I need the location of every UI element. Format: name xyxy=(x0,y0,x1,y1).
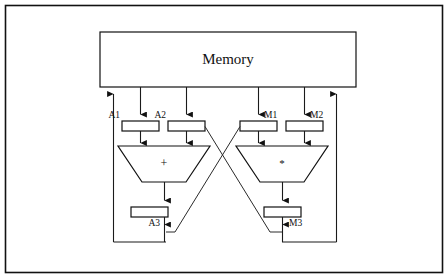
memory-block: Memory xyxy=(100,32,356,87)
register-m2[interactable] xyxy=(286,121,323,131)
register-a1-label: A1 xyxy=(108,110,120,120)
register-a2[interactable] xyxy=(168,121,205,131)
register-a3-label: A3 xyxy=(148,218,160,228)
register-a3[interactable] xyxy=(131,207,168,217)
diagram-canvas: Memory A1 A2 M1 xyxy=(0,0,448,278)
register-a2-label: A2 xyxy=(154,110,166,120)
register-m1-label: M1 xyxy=(264,110,277,120)
register-m2-label: M2 xyxy=(310,110,323,120)
datapath-diagram: Memory A1 A2 M1 xyxy=(0,0,448,278)
register-a1[interactable] xyxy=(122,121,159,131)
unit-to-output-wires xyxy=(165,182,283,201)
output-register-row: A3 M3 xyxy=(131,207,302,228)
adder-unit[interactable]: + xyxy=(118,146,210,182)
memory-label: Memory xyxy=(202,51,254,67)
register-m1[interactable] xyxy=(240,121,277,131)
multiplier-unit[interactable]: * xyxy=(236,146,328,182)
register-m3[interactable] xyxy=(264,207,301,217)
asterisk-symbol: * xyxy=(279,157,285,169)
register-m3-label: M3 xyxy=(289,218,302,228)
register-to-unit-wires xyxy=(141,131,305,143)
plus-symbol: + xyxy=(161,156,168,170)
